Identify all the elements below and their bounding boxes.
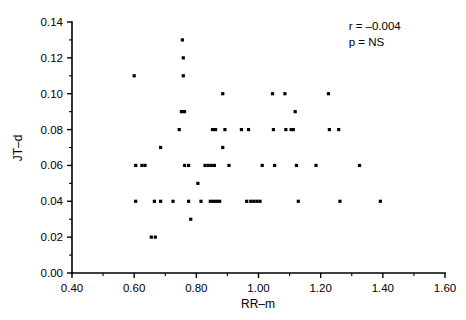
data-point [207,164,210,167]
data-point [183,164,186,167]
x-axis-title: RR–m [241,297,275,311]
data-point [178,128,181,131]
data-point [252,200,255,203]
data-point [221,92,224,95]
data-point [212,200,215,203]
x-tick-label: 1.00 [247,282,269,294]
data-point [314,164,317,167]
data-point [255,200,258,203]
data-point [203,164,206,167]
data-point [159,146,162,149]
data-point [292,128,295,131]
x-tick-label: 1.40 [372,282,394,294]
data-point [171,200,174,203]
data-point [150,236,153,239]
data-point [297,200,300,203]
data-point [213,164,216,167]
data-point [295,164,298,167]
data-point [214,128,217,131]
data-point [338,200,341,203]
data-point [328,128,331,131]
data-point [358,164,361,167]
data-point [218,200,221,203]
y-axis-tick-labels: 0.000.020.040.060.080.100.120.14 [41,16,64,279]
x-tick-label: 1.60 [434,282,456,294]
data-point [284,128,287,131]
data-point [199,200,202,203]
chart-annotations: r = –0.004p = NS [349,20,402,48]
data-point [154,236,157,239]
data-point [283,92,286,95]
data-point [211,128,214,131]
data-point [221,146,224,149]
data-points [133,38,382,238]
data-point [294,110,297,113]
chart-canvas: 0.000.020.040.060.080.100.120.14 0.400.6… [0,0,466,320]
data-point [209,200,212,203]
data-point [140,164,143,167]
x-tick-label: 1.20 [309,282,331,294]
x-tick-label: 0.40 [61,282,83,294]
data-point [215,200,218,203]
y-tick-label: 0.08 [41,124,63,136]
data-point [143,164,146,167]
data-point [337,128,340,131]
data-point [181,38,184,41]
data-point [159,200,162,203]
data-point [245,200,248,203]
data-point [223,128,226,131]
data-point [133,74,136,77]
data-point [183,110,186,113]
data-point [182,56,185,59]
data-point [247,128,250,131]
data-point [153,200,156,203]
data-point [187,164,190,167]
data-point [210,164,213,167]
data-point [249,200,252,203]
y-tick-label: 0.14 [41,16,64,28]
p-value: p = NS [349,36,385,48]
data-point [273,164,276,167]
data-point [227,164,230,167]
data-point [180,110,183,113]
y-tick-label: 0.10 [41,88,63,100]
data-point [196,182,199,185]
scatter-plot-figure: 0.000.020.040.060.080.100.120.14 0.400.6… [0,0,466,320]
data-point [187,200,190,203]
x-tick-label: 0.60 [123,282,145,294]
data-point [327,92,330,95]
x-axis-tick-labels: 0.400.600.801.001.201.401.60 [61,282,456,294]
data-point [261,164,264,167]
data-point [258,200,261,203]
data-point [272,128,275,131]
data-point [240,128,243,131]
y-tick-label: 0.02 [41,231,63,243]
y-tick-label: 0.04 [41,195,64,207]
data-point [182,74,185,77]
data-point [271,92,274,95]
y-tick-label: 0.00 [41,267,63,279]
data-point [189,218,192,221]
data-point [134,164,137,167]
x-tick-label: 0.80 [185,282,207,294]
y-axis-title: JT–d [11,135,25,162]
correlation-coefficient: r = –0.004 [349,20,402,32]
y-tick-label: 0.06 [41,159,63,171]
y-tick-label: 0.12 [41,52,63,64]
data-point [134,200,137,203]
data-point [379,200,382,203]
